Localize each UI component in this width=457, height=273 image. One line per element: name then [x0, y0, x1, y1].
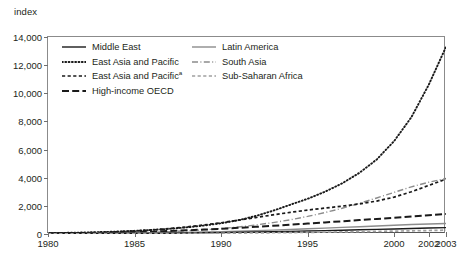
legend-entry-label: South Asia	[222, 57, 266, 67]
legend-entry: Middle East	[62, 42, 184, 52]
x-axis-tick-mark	[308, 232, 309, 237]
y-axis-tick-mark	[44, 206, 49, 207]
legend-entry-label: Latin America	[222, 42, 278, 52]
legend-line-swatch	[62, 72, 86, 80]
legend-entry: Sub-Saharan Africa	[192, 71, 314, 81]
legend-line-swatch	[192, 43, 216, 51]
x-axis-tick-mark	[394, 232, 395, 237]
x-axis-tick-mark	[135, 232, 136, 237]
y-axis-tick-mark	[44, 37, 49, 38]
y-axis-tick-mark	[44, 178, 49, 179]
legend-line-swatch	[62, 87, 86, 95]
legend-entry: South Asia	[192, 57, 314, 67]
legend-line-swatch	[62, 58, 86, 66]
y-axis-tick-mark	[44, 121, 49, 122]
x-axis-tick-label: 1990	[210, 238, 231, 249]
x-axis-tick-mark	[48, 232, 49, 237]
y-axis-tick-mark	[44, 65, 49, 66]
x-axis-tick-mark	[446, 232, 447, 237]
legend-entry-label: Sub-Saharan Africa	[222, 71, 303, 81]
legend-entry-label: East Asia and Pacifica	[92, 71, 182, 81]
x-axis-tick-label: 1980	[37, 238, 58, 249]
legend-entry: High-income OECD	[62, 86, 184, 96]
x-axis-tick-label: 2003	[435, 238, 456, 249]
legend-line-swatch	[62, 43, 86, 51]
x-axis-tick-label: 1985	[124, 238, 145, 249]
y-axis-tick-mark	[44, 150, 49, 151]
legend-entry-label: High-income OECD	[92, 86, 174, 96]
y-axis-unit-label: index	[14, 6, 37, 17]
legend-entry: Latin America	[192, 42, 314, 52]
legend-entry-label: Middle East	[92, 42, 141, 52]
x-axis-tick-mark	[429, 232, 430, 237]
x-axis-tick-mark	[221, 232, 222, 237]
legend-line-swatch	[192, 72, 216, 80]
x-axis-tick-label: 1995	[297, 238, 318, 249]
y-axis-tick-mark	[44, 93, 49, 94]
legend-entry: East Asia and Pacific	[62, 57, 184, 67]
chart-legend: Middle EastLatin AmericaEast Asia and Pa…	[62, 40, 362, 98]
legend-entry-label: East Asia and Pacific	[92, 57, 179, 67]
legend-line-swatch	[192, 58, 216, 66]
legend-footnote-marker: a	[179, 69, 182, 76]
legend-entry: East Asia and Pacifica	[62, 71, 184, 81]
x-axis-tick-label: 2000	[384, 238, 405, 249]
